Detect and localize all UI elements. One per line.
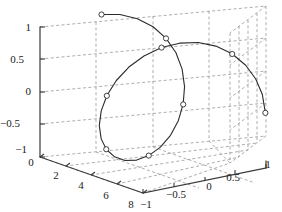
data-point-marker	[104, 147, 109, 152]
x-tick-2	[66, 163, 70, 166]
y-axis-tick-label: −1	[140, 198, 152, 210]
data-point-marker	[99, 12, 104, 17]
plot-3d-axes: 10.50−0.5−102468−1−0.500.51	[0, 0, 282, 212]
x-axis-tick-label: 6	[103, 189, 109, 201]
y-axis-tick-label: 1	[265, 158, 271, 170]
data-point-marker	[159, 45, 164, 50]
data-point-markers	[99, 12, 268, 158]
grid-back-wall	[40, 6, 266, 157]
z-axis-tick-label: 1	[26, 21, 32, 33]
z-axis-tick-label: −1	[15, 143, 27, 155]
grid-line-side-z1	[230, 6, 266, 33]
y-axis-tick-label: 0	[206, 180, 212, 192]
y-axis-tick-label: −0.5	[166, 188, 186, 200]
data-point-marker	[181, 102, 186, 107]
y-axis-tick-label: 0.5	[226, 171, 240, 183]
z-axis-tick-label: −0.5	[0, 117, 20, 129]
x-axis-tick-label: 8	[128, 198, 134, 210]
z-axis-tick-label: 0.5	[10, 53, 24, 65]
figure-canvas: 10.50−0.5−102468−1−0.500.51	[0, 0, 282, 212]
grid-floor	[40, 141, 257, 193]
grid-right-wall	[230, 6, 266, 163]
data-point-marker	[230, 51, 235, 56]
x-axis-tick-label: 4	[78, 179, 84, 191]
z-axis-ticks	[40, 27, 45, 157]
data-point-marker	[104, 93, 109, 98]
data-point-marker	[263, 110, 268, 115]
x-axis-tick-label: 0	[28, 156, 34, 168]
grid-floor-x6-partial	[209, 141, 230, 163]
z-axis-tick-label: 0	[26, 85, 32, 97]
x-axis-tick-label: 2	[53, 169, 59, 181]
data-point-marker	[163, 36, 168, 41]
data-point-marker	[146, 153, 151, 158]
